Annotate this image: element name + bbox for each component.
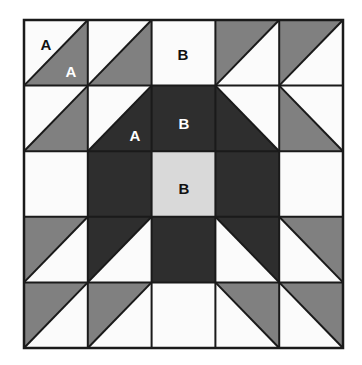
cell-r3c5-base [279, 151, 343, 217]
cell-r4c1 [24, 217, 88, 283]
cell-r5c4 [215, 282, 279, 348]
cell-r1c1 [24, 20, 88, 86]
cell-r5c3-base [152, 282, 216, 348]
label-b-r2c3: B [179, 115, 190, 132]
cell-r1c2 [88, 20, 152, 86]
cell-r2c5 [279, 86, 343, 152]
cell-r5c3 [152, 282, 216, 348]
cell-r4c4 [215, 217, 279, 283]
quilt-block-diagram: AABABB [0, 0, 362, 365]
label-a-r2c2: A [130, 127, 141, 144]
cell-r3c2 [88, 151, 152, 217]
label-b-r1c3: B [178, 46, 189, 63]
cell-r4c3-base [152, 217, 216, 283]
cell-r3c4-base [215, 151, 279, 217]
cell-r3c5 [279, 151, 343, 217]
cell-r2c4 [215, 86, 279, 152]
cell-r2c1 [24, 86, 88, 152]
label-a-r1c1-white: A [41, 36, 52, 53]
cell-r3c4 [215, 151, 279, 217]
cell-r5c2 [88, 282, 152, 348]
cell-r1c4 [215, 20, 279, 86]
cell-r4c3 [152, 217, 216, 283]
cell-r1c5 [279, 20, 343, 86]
label-a-r1c1-gray: A [66, 63, 77, 80]
cell-r3c1-base [24, 151, 88, 217]
cell-r3c2-base [88, 151, 152, 217]
label-b-r3c3: B [179, 180, 190, 197]
cell-r3c1 [24, 151, 88, 217]
cell-r5c5 [279, 282, 343, 348]
quilt-block-canvas: AABABB [0, 0, 362, 365]
cell-r2c2 [88, 86, 152, 152]
cell-r5c1 [24, 282, 88, 348]
cell-r4c2 [88, 217, 152, 283]
cell-r4c5 [279, 217, 343, 283]
